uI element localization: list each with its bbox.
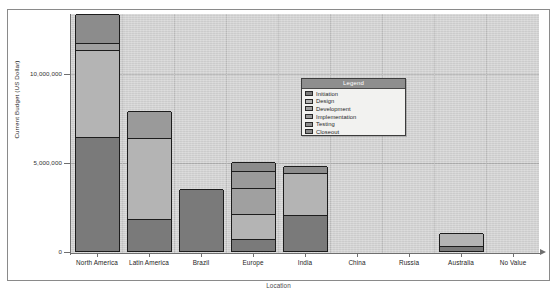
legend-item-label: Initiation <box>316 91 338 97</box>
gridline-vertical <box>226 14 227 253</box>
x-tick-label: China <box>331 259 383 266</box>
y-tick-0 <box>64 252 70 253</box>
x-tick-label: India <box>279 259 331 266</box>
x-tick-label: Latin America <box>123 259 175 266</box>
x-tick-label: Russia <box>383 259 435 266</box>
legend-items: InitiationDesignDevelopmentImplementatio… <box>302 89 405 136</box>
y-tick-5m <box>64 163 70 164</box>
x-tick <box>149 253 150 257</box>
x-tick-label: No Value <box>487 259 539 266</box>
gridline-vertical <box>486 14 487 253</box>
bar-brazil[interactable] <box>179 190 224 252</box>
bar-segment-implementation[interactable] <box>128 111 171 138</box>
legend-item[interactable]: Development <box>305 105 403 113</box>
bar-europe[interactable] <box>231 163 276 252</box>
bar-segment-design[interactable] <box>76 50 119 137</box>
legend-swatch-icon <box>305 129 313 134</box>
bar-segment-design[interactable] <box>284 173 327 216</box>
x-tick <box>253 253 254 257</box>
x-tick-label: Europe <box>227 259 279 266</box>
x-tick-label: Brazil <box>175 259 227 266</box>
x-tick <box>357 253 358 257</box>
legend-item[interactable]: Design <box>305 98 403 106</box>
bar-segment-initiation[interactable] <box>232 239 275 251</box>
legend-item-label: Development <box>316 106 351 112</box>
legend-swatch-icon <box>305 114 313 119</box>
gridline-10m <box>71 74 539 75</box>
legend-title: Legend <box>302 79 405 89</box>
bar-segment-initiation[interactable] <box>440 246 483 251</box>
bar-segment-development[interactable] <box>76 43 119 50</box>
bar-latin-america[interactable] <box>127 112 172 252</box>
x-tick-label: Australia <box>435 259 487 266</box>
y-tick-10m <box>64 74 70 75</box>
legend-swatch-icon <box>305 99 313 104</box>
gridline-vertical <box>174 14 175 253</box>
x-tick-label: North America <box>71 259 123 266</box>
legend-item-label: Implementation <box>316 114 356 120</box>
legend-item[interactable]: Testing <box>305 120 403 128</box>
y-tick-label-10m: 10,000,000 <box>30 70 62 77</box>
x-tick <box>513 253 514 257</box>
bar-segment-initiation[interactable] <box>284 215 327 251</box>
x-tick <box>97 253 98 257</box>
bar-north-america[interactable] <box>75 15 120 252</box>
x-axis-title: Location <box>0 282 557 289</box>
gridline-vertical <box>434 14 435 253</box>
bar-segment-testing[interactable] <box>284 166 327 173</box>
bar-segment-testing[interactable] <box>76 14 119 42</box>
bar-segment-initiation[interactable] <box>76 137 119 251</box>
bar-india[interactable] <box>283 167 328 252</box>
legend-item-label: Closeout <box>316 129 339 135</box>
x-tick <box>409 253 410 257</box>
x-axis-line <box>70 253 542 254</box>
bar-segment-design[interactable] <box>232 214 275 240</box>
bar-segment-initiation[interactable] <box>180 189 223 251</box>
legend-item-label: Testing <box>316 121 335 127</box>
gridline-vertical <box>122 14 123 253</box>
legend[interactable]: Legend InitiationDesignDevelopmentImplem… <box>301 78 406 136</box>
chart-container: 10,000,000 5,000,000 0 Current Budget (U… <box>0 0 557 291</box>
bar-australia[interactable] <box>439 234 484 252</box>
gridline-vertical <box>278 14 279 253</box>
legend-item-label: Design <box>316 98 334 104</box>
legend-item[interactable]: Initiation <box>305 90 403 98</box>
legend-swatch-icon <box>305 122 313 127</box>
legend-item[interactable]: Implementation <box>305 113 403 121</box>
x-tick <box>201 253 202 257</box>
bar-segment-design[interactable] <box>128 138 171 219</box>
y-tick-label-0: 0 <box>58 248 62 255</box>
x-tick <box>305 253 306 257</box>
legend-item[interactable]: Closeout <box>305 128 403 136</box>
bar-segment-initiation[interactable] <box>128 219 171 251</box>
legend-swatch-icon <box>305 106 313 111</box>
legend-swatch-icon <box>305 91 313 96</box>
bar-segment-development[interactable] <box>232 188 275 214</box>
bar-segment-design[interactable] <box>440 233 483 245</box>
y-tick-label-5m: 5,000,000 <box>34 159 62 166</box>
y-axis-title: Current Budget (US Dollar) <box>13 40 20 160</box>
bar-segment-testing[interactable] <box>232 162 275 171</box>
y-axis-line <box>70 14 71 255</box>
x-tick <box>461 253 462 257</box>
bar-segment-implementation[interactable] <box>232 171 275 188</box>
x-axis-arrow-icon <box>540 249 546 255</box>
